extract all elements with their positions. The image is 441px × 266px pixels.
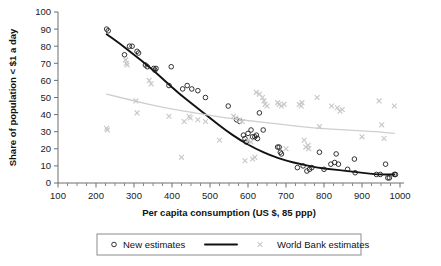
x-axis-tick-label: 800 [316, 190, 332, 201]
x-axis-tick-label: 200 [88, 190, 104, 201]
data-point-new-estimates [122, 52, 127, 57]
legend-label-new-estimates: New estimates [123, 239, 186, 250]
y-axis-tick-label: 70 [40, 58, 51, 69]
x-axis-title: Per capita consumption (US $, 85 ppp) [142, 207, 316, 218]
y-axis-tick-label: 0 [46, 177, 51, 188]
data-point-new-estimates [196, 88, 201, 93]
x-axis-tick-label: 1000 [389, 190, 410, 201]
chart-container: 0102030405060708090100100200300400500600… [0, 0, 441, 266]
data-point-new-estimates [257, 111, 262, 116]
x-axis-tick-label: 100 [50, 190, 66, 201]
x-axis-tick-label: 500 [202, 190, 218, 201]
y-axis-tick-label: 50 [40, 92, 51, 103]
y-axis-tick-label: 20 [40, 143, 51, 154]
x-axis-tick-label: 300 [126, 190, 142, 201]
y-axis-tick-label: 90 [40, 24, 51, 35]
data-point-new-estimates [203, 95, 208, 100]
data-point-new-estimates [169, 64, 174, 69]
data-point-new-estimates [185, 83, 190, 88]
legend-label-world-bank: World Bank estimates [277, 239, 369, 250]
data-point-new-estimates [226, 104, 231, 109]
x-axis-tick-label: 400 [164, 190, 180, 201]
scatter-chart: 0102030405060708090100100200300400500600… [0, 0, 441, 266]
x-axis-tick-label: 600 [240, 190, 256, 201]
data-point-new-estimates [180, 87, 185, 92]
y-axis-tick-label: 60 [40, 75, 51, 86]
data-point-new-estimates [336, 162, 341, 167]
data-point-new-estimates [334, 152, 339, 157]
data-point-new-estimates [383, 162, 388, 167]
y-axis-tick-label: 30 [40, 126, 51, 137]
data-point-new-estimates [249, 128, 254, 133]
y-axis-tick-label: 10 [40, 160, 51, 171]
y-axis-title: Share of population < $1 a day [7, 28, 18, 166]
data-point-new-estimates [189, 87, 194, 92]
y-axis-tick-label: 80 [40, 41, 51, 52]
data-point-new-estimates [295, 165, 300, 170]
data-point-new-estimates [317, 150, 322, 155]
y-axis-tick-label: 100 [35, 6, 51, 17]
x-axis-tick-label: 900 [354, 190, 370, 201]
x-axis-tick-label: 700 [278, 190, 294, 201]
data-point-new-estimates [352, 157, 357, 162]
y-axis-tick-label: 40 [40, 109, 51, 120]
data-point-new-estimates [261, 128, 266, 133]
